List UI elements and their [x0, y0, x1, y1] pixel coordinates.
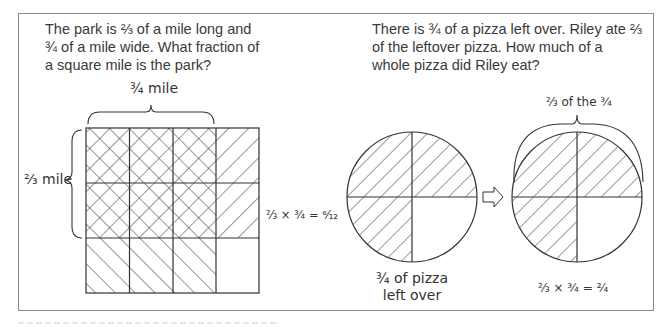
width-label: ¾ mile [130, 80, 178, 96]
eaten-pizza [505, 125, 650, 270]
length-label: ⅔ mile [24, 171, 72, 187]
leftover-caption-line1: ¾ of pizza [362, 270, 462, 287]
length-hatch-bottom [86, 238, 216, 293]
pizza-equation: ⅔ × ¾ = ²⁄₄ [538, 281, 608, 295]
brace-label: ⅔ of the ¾ [546, 95, 612, 109]
park-equation: ⅔ × ¾ = ⁶⁄₁₂ [266, 208, 338, 222]
width-brace [88, 105, 214, 124]
leftover-caption: ¾ of pizza left over [362, 270, 462, 304]
diagram-graphics [0, 0, 668, 327]
leftover-pizza [340, 125, 485, 270]
right-arrow-icon [483, 187, 503, 207]
leftover-caption-line2: left over [362, 287, 462, 304]
clipped-caption [18, 318, 278, 327]
